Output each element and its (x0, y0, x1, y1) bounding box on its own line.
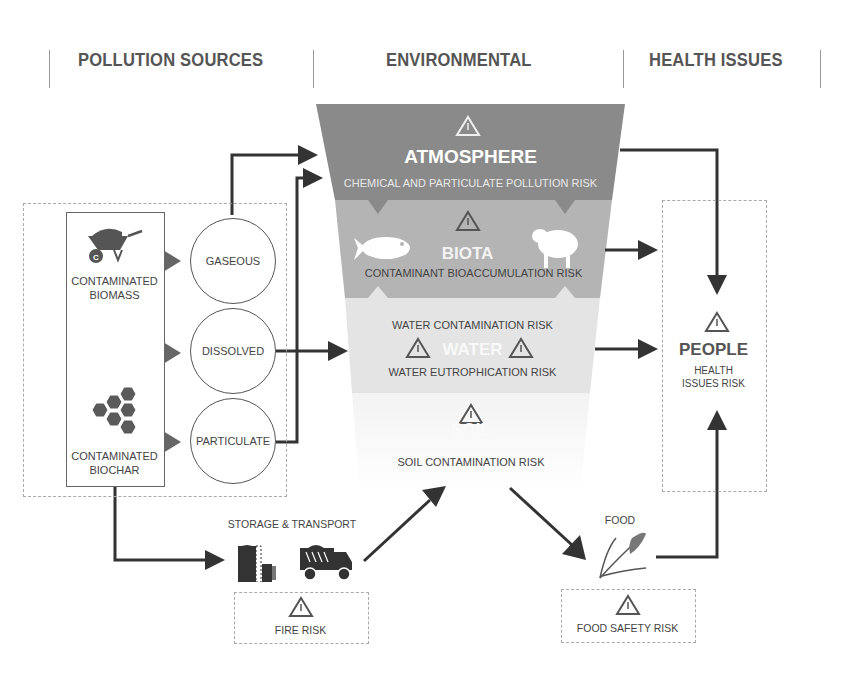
phase-dissolved: DISSOLVED (190, 308, 276, 394)
biota-risk: CONTAMINANT BIOACCUMULATION RISK (335, 267, 612, 279)
biomass-label-2: BIOMASS (66, 289, 163, 301)
water-risk-contamination: WATER CONTAMINATION RISK (345, 319, 600, 331)
atmosphere-title: ATMOSPHERE (316, 146, 625, 168)
biomass-label-1: CONTAMINATED (66, 275, 163, 287)
fire-risk-label: FIRE RISK (234, 624, 367, 636)
people-risk-1: HEALTH (662, 365, 765, 376)
soil-risk: SOIL CONTAMINATION RISK (352, 456, 590, 468)
phase-gaseous: GASEOUS (190, 218, 276, 304)
food-label: FOOD (590, 514, 650, 526)
food-safety-risk-label: FOOD SAFETY RISK (561, 622, 694, 634)
water-risk-eutrophication: WATER EUTROPHICATION RISK (345, 366, 600, 378)
svg-text:C: C (93, 253, 99, 262)
people-risk-2: ISSUES RISK (662, 378, 765, 389)
water-title: WATER (345, 340, 600, 360)
wheelbarrow-icon: C (84, 222, 154, 267)
people-title: PEOPLE (662, 340, 765, 360)
biota-title: BIOTA (335, 244, 600, 264)
hexagon-cluster-icon (88, 385, 142, 441)
biochar-label-2: BIOCHAR (66, 464, 163, 476)
atmosphere-risk: CHEMICAL AND PARTICULATE POLLUTION RISK (316, 177, 625, 189)
soil-title: SOIL (352, 420, 590, 440)
storage-label: STORAGE & TRANSPORT (222, 518, 362, 530)
phase-particulate: PARTICULATE (190, 398, 276, 484)
biochar-label-1: CONTAMINATED (66, 450, 163, 462)
